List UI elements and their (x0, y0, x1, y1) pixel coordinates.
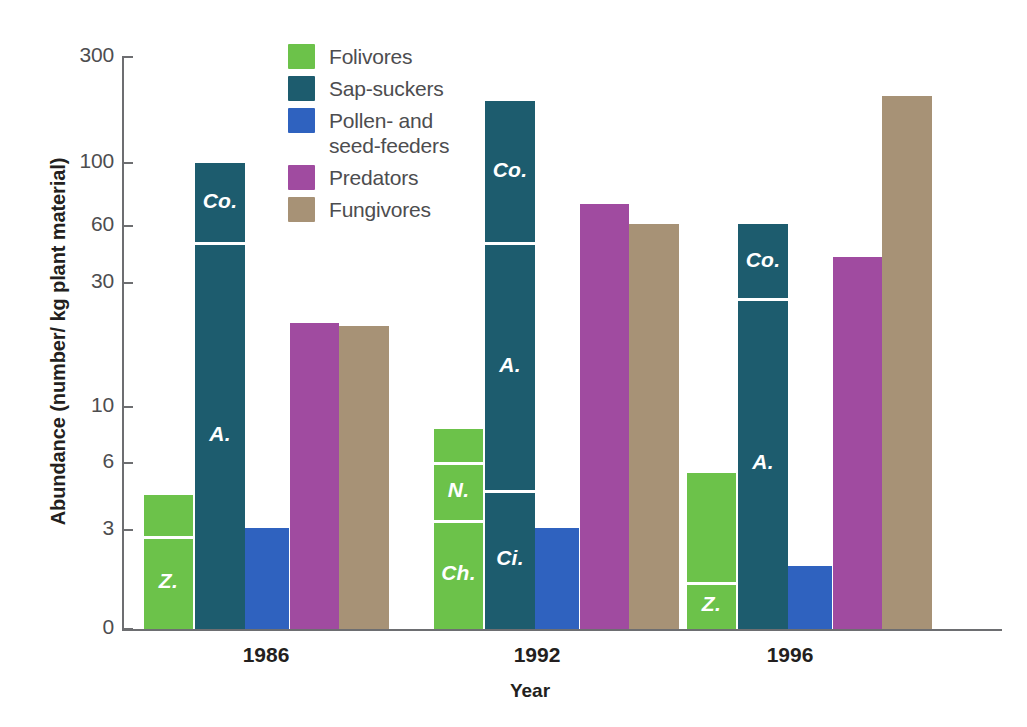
y-tick-mark-10 (122, 406, 133, 408)
y-tick-label-300: 300 (58, 43, 114, 67)
legend-label-pollen-seed-feeders: Pollen- and seed-feeders (329, 108, 449, 158)
y-tick-mark-30 (122, 282, 133, 284)
segment-label-z: Z. (144, 569, 193, 593)
segment-label-n: N. (434, 478, 483, 502)
legend-item-pollen-seed-feeders[interactable]: Pollen- and seed-feeders (288, 108, 449, 158)
y-tick-label-10: 10 (58, 393, 114, 417)
y-tick-label-3: 3 (58, 516, 114, 540)
chart-legend: Folivores Sap-suckers Pollen- and seed-f… (288, 44, 449, 229)
bar-pollen-and-seed-feeders-1996[interactable] (788, 566, 832, 629)
legend-item-fungivores[interactable]: Fungivores (288, 197, 449, 222)
chart-canvas: Abundance (number/ kg plant material) 03… (0, 0, 1027, 727)
y-tick-mark-0 (122, 628, 133, 630)
y-tick-mark-60 (122, 225, 133, 227)
y-tick-label-100: 100 (58, 149, 114, 173)
segment-label-co: Co. (738, 248, 788, 272)
x-axis-label-1992: 1992 (437, 643, 637, 667)
segment-label-a: A. (195, 422, 245, 446)
legend-item-predators[interactable]: Predators (288, 165, 449, 190)
x-axis-title: Year (430, 680, 630, 702)
legend-swatch-folivores (288, 44, 315, 69)
segment-label-z: Z. (687, 592, 736, 616)
segment-divider (485, 242, 535, 245)
x-axis-label-1986: 1986 (166, 643, 366, 667)
bar-sap-suckers-1986[interactable]: A.Co. (195, 163, 245, 629)
legend-item-sap-suckers[interactable]: Sap-suckers (288, 76, 449, 101)
segment-label-co: Co. (485, 158, 535, 182)
segment-label-ci: Ci. (485, 546, 535, 570)
bar-sap-suckers-1996[interactable]: A.Co. (738, 224, 788, 629)
segment-label-a: A. (738, 450, 788, 474)
bar-fungivores-1986[interactable] (339, 326, 389, 629)
y-tick-label-30: 30 (58, 269, 114, 293)
legend-swatch-pollen-seed-feeders (288, 108, 315, 133)
legend-label-fungivores: Fungivores (329, 197, 431, 222)
legend-swatch-sap-suckers (288, 76, 315, 101)
x-axis-line (122, 629, 1002, 631)
bar-fungivores-1992[interactable] (629, 224, 679, 629)
y-tick-label-60: 60 (58, 212, 114, 236)
segment-divider (738, 298, 788, 301)
y-tick-mark-100 (122, 162, 133, 164)
x-axis-label-1996: 1996 (690, 643, 890, 667)
segment-divider (144, 536, 193, 539)
segment-label-ch: Ch. (434, 561, 483, 585)
legend-item-folivores[interactable]: Folivores (288, 44, 449, 69)
bar-folivores-1996[interactable]: Z. (687, 473, 736, 629)
segment-label-co: Co. (195, 189, 245, 213)
legend-swatch-predators (288, 165, 315, 190)
legend-label-sap-suckers: Sap-suckers (329, 76, 444, 101)
legend-label-folivores: Folivores (329, 44, 412, 69)
y-tick-mark-6 (122, 462, 133, 464)
y-tick-mark-3 (122, 529, 133, 531)
y-tick-label-6: 6 (58, 449, 114, 473)
bar-fungivores-1996[interactable] (882, 96, 932, 629)
bar-pollen-and-seed-feeders-1986[interactable] (245, 528, 289, 629)
bar-folivores-1992[interactable]: Ch.N. (434, 429, 483, 629)
bar-sap-suckers-1992[interactable]: Ci.A.Co. (485, 101, 535, 629)
segment-divider (195, 242, 245, 245)
bar-predators-1996[interactable] (833, 257, 882, 629)
legend-label-predators: Predators (329, 165, 418, 190)
segment-label-a: A. (485, 353, 535, 377)
legend-swatch-fungivores (288, 197, 315, 222)
segment-divider (434, 520, 483, 523)
bar-predators-1986[interactable] (290, 323, 339, 629)
segment-divider (434, 462, 483, 465)
segment-divider (485, 490, 535, 493)
y-axis-line (122, 57, 124, 631)
bar-pollen-and-seed-feeders-1992[interactable] (535, 528, 579, 629)
segment-divider (687, 582, 736, 585)
bar-folivores-1986[interactable]: Z. (144, 495, 193, 629)
bar-predators-1992[interactable] (580, 204, 629, 629)
y-tick-label-0: 0 (58, 615, 114, 639)
y-tick-mark-300 (122, 56, 133, 58)
